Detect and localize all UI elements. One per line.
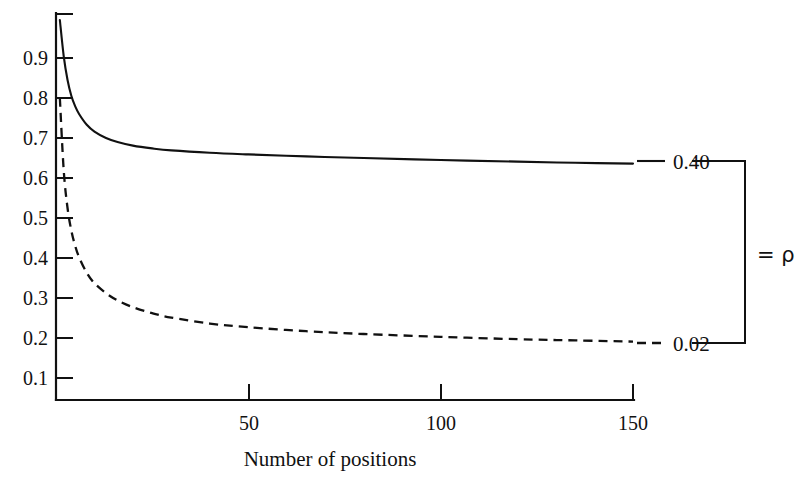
rho-equals-label: = ρ <box>757 243 795 267</box>
rho-bracket <box>692 161 745 343</box>
x-axis-title: Number of positions <box>244 447 417 471</box>
y-tick-labels: 0.9 0.8 0.7 0.6 0.5 0.4 0.3 0.2 0.1 <box>23 47 48 389</box>
chart-svg: 0.9 0.8 0.7 0.6 0.5 0.4 0.3 0.2 0.1 50 1… <box>0 0 802 484</box>
legend-group: 0.40 0.02 = ρ <box>637 150 795 356</box>
x-tick-label-150: 150 <box>618 412 648 434</box>
y-tick-label-2: 0.7 <box>23 127 48 149</box>
y-tick-label-8: 0.1 <box>23 367 48 389</box>
y-tick-label-5: 0.4 <box>23 247 48 269</box>
series-line-rho-040 <box>60 20 633 164</box>
y-tick-label-7: 0.2 <box>23 327 48 349</box>
x-ticks-group <box>249 384 441 400</box>
x-tick-label-100: 100 <box>426 412 456 434</box>
x-tick-labels: 50 100 150 <box>239 412 648 434</box>
y-tick-label-1: 0.8 <box>23 87 48 109</box>
x-tick-label-50: 50 <box>239 412 259 434</box>
axes-group <box>56 13 634 400</box>
y-tick-label-4: 0.5 <box>23 207 48 229</box>
y-tick-label-3: 0.6 <box>23 167 48 189</box>
chart-figure: 0.9 0.8 0.7 0.6 0.5 0.4 0.3 0.2 0.1 50 1… <box>0 0 802 484</box>
y-tick-label-0: 0.9 <box>23 47 48 69</box>
y-ticks-group <box>56 58 73 378</box>
series-line-rho-002 <box>60 98 633 342</box>
y-tick-label-6: 0.3 <box>23 287 48 309</box>
